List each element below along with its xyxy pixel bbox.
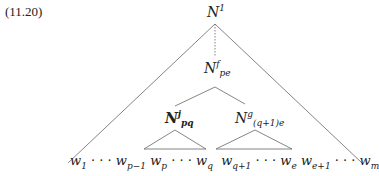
node-right: Ng(q+1)e	[235, 110, 284, 128]
node-root: N1	[207, 4, 225, 19]
node-mid: Nfpe	[204, 60, 231, 78]
example-number: (11.20)	[5, 4, 42, 20]
node-left: Njpq	[165, 110, 194, 128]
terminal-string: w1 · · · wp−1 wp · · · wq wq+1 · · · we …	[70, 154, 379, 171]
